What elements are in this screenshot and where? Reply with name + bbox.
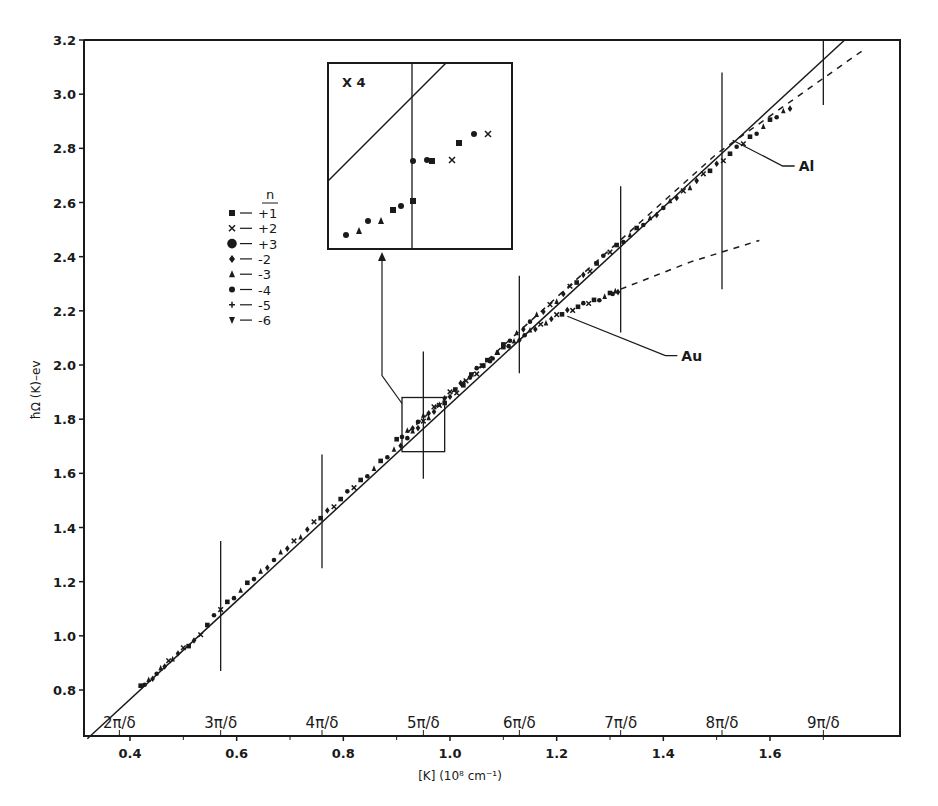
data-point [688,185,693,191]
data-point [325,507,330,514]
legend-label: -3 [258,267,271,282]
data-point [405,427,410,433]
zone-label: 4π/δ [306,714,339,732]
legend-label: -2 [258,252,271,267]
inset-arrow [382,255,402,404]
data-point [754,131,759,136]
y-tick-label: 2.0 [53,358,76,373]
legend-label: -6 [258,313,271,328]
data-point [522,333,527,338]
data-point [394,437,399,442]
legend-entry: +2 [229,221,277,236]
data-point [761,123,766,129]
annotation-label: Al [799,158,815,174]
y-tick-label: 1.2 [53,575,76,590]
legend-label: +1 [258,206,277,221]
data-point [332,504,337,509]
series-au-extrapolated [621,240,760,289]
data-point [154,671,159,676]
data-point [661,206,666,211]
data-point [312,520,317,525]
data-point [298,534,303,540]
data-point [272,558,277,563]
inset-data-point [471,131,477,137]
large-circle-marker-icon [227,239,237,249]
data-point [158,665,163,671]
legend: n+1+2+3-2-3-4-5-6 [227,187,278,328]
inset-magnification-label: X 4 [342,75,366,90]
data-point [292,539,297,544]
x-tick-label: 0.4 [118,746,141,761]
data-point [138,683,143,688]
inset-data-point [410,158,416,164]
data-point [512,338,517,344]
data-point [416,425,421,432]
x-tick-label: 0.6 [225,746,248,761]
inset-data-point [410,198,416,204]
zone-label: 6π/δ [503,714,536,732]
data-point [365,474,370,479]
x-marker-icon [229,225,235,231]
inset-data-point [343,232,349,238]
data-point [474,366,479,371]
y-tick-label: 0.8 [53,683,76,698]
data-point [554,298,559,304]
data-point [410,425,415,432]
zone-label: 5π/δ [407,714,440,732]
data-point [565,307,570,314]
y-tick-label: 1.4 [53,521,76,536]
data-point [728,151,733,156]
data-point [405,436,410,441]
data-point [641,223,646,228]
data-point [788,105,793,112]
data-point [252,577,257,582]
data-point [634,226,639,231]
legend-entry: +1 [229,206,277,221]
legend-label: -5 [258,298,271,313]
zone-label: 8π/δ [706,714,739,732]
leader-line [567,316,677,355]
data-point [416,420,421,425]
annotation-au: Au [567,316,702,363]
inset-data-point [398,203,404,209]
data-point [506,344,511,349]
data-point [701,172,706,177]
data-point [774,115,779,120]
diamond-marker-icon [229,255,235,263]
circle-marker-icon [229,287,235,293]
y-tick-label: 3.2 [53,33,76,48]
data-point [385,455,390,460]
legend-label: +3 [258,237,277,252]
data-point [469,372,474,377]
data-point [608,250,613,255]
data-point [238,587,243,593]
x-tick-label: 1.6 [758,746,781,761]
zone-label: 9π/δ [807,714,840,732]
data-point [544,320,549,326]
x-axis: 0.40.60.81.01.21.41.6 [118,736,823,761]
data-point [186,644,191,649]
y-tick-label: 1.6 [53,466,76,481]
data-point [352,485,357,490]
x-tick-label: 1.0 [438,746,461,761]
dispersion-chart: 0.81.01.21.41.61.82.02.22.42.62.83.03.2 … [0,0,938,806]
triangle-up-marker-icon [229,270,235,277]
data-point [597,298,602,303]
inset-data-point [390,207,396,213]
zone-label: 3π/δ [204,714,237,732]
y-tick-label: 2.2 [53,304,76,319]
data-point [748,134,753,139]
data-point [714,160,719,167]
data-point [392,446,397,452]
y-axis-label: ħΩ (K)–ev [29,360,43,419]
triangle-down-marker-icon [229,317,235,324]
zone-label: 2π/δ [103,714,136,732]
y-tick-label: 2.4 [53,250,76,265]
legend-title: n [266,187,274,202]
data-point [576,304,581,309]
data-point [345,489,350,494]
data-point [581,272,586,279]
annotations: AlAu [567,140,814,363]
zone-label: 7π/δ [604,714,637,732]
inset-data-point [365,218,371,224]
